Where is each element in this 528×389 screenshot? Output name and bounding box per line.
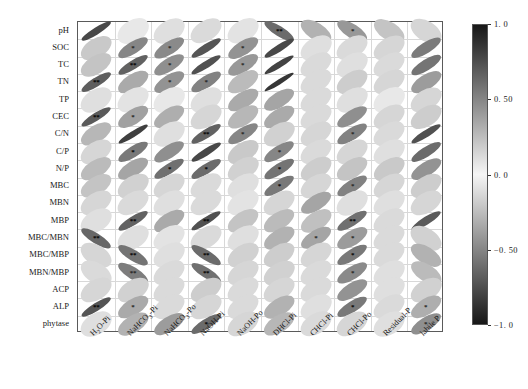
y-axis-label-mbc-mbn: MBC/MBN bbox=[28, 233, 69, 242]
significance-marker: ** bbox=[203, 131, 209, 138]
correlation-cell bbox=[261, 57, 298, 74]
y-axis-label-mbc-mbp: MBC/MBP bbox=[29, 250, 69, 259]
y-axis-label-mbn: MBN bbox=[49, 198, 69, 207]
correlation-cell: ** bbox=[188, 247, 225, 264]
correlation-cell bbox=[115, 126, 152, 143]
significance-marker: * bbox=[314, 234, 317, 241]
correlation-cell: ** bbox=[188, 126, 225, 143]
significance-marker: * bbox=[351, 269, 354, 276]
significance-marker: * bbox=[131, 304, 134, 311]
colorbar-tick-label: 0. 0 bbox=[494, 170, 508, 179]
correlation-cell bbox=[78, 212, 115, 229]
significance-marker: * bbox=[424, 304, 427, 311]
x-axis-labels: H2O-PiNaHCO3-PiNaHCO3-PoNaOH-PiNaOH-PoDH… bbox=[77, 332, 443, 389]
y-axis-label-acp: ACP bbox=[52, 285, 69, 294]
colorbar-tick bbox=[488, 325, 491, 326]
colorbar-tick-label: 0. 50 bbox=[494, 95, 513, 104]
y-axis-label-mbn-mbp: MBN/MBP bbox=[29, 267, 69, 276]
y-axis-label-n-p: N/P bbox=[56, 164, 69, 173]
y-axis-labels: pHSOCTCTNTPCECC/NC/PN/PMBCMBNMBPMBC/MBNM… bbox=[0, 21, 73, 332]
y-axis-label-c-p: C/P bbox=[56, 146, 69, 155]
colorbar bbox=[472, 24, 488, 325]
significance-marker: * bbox=[278, 148, 281, 155]
y-axis-label-tp: TP bbox=[59, 94, 69, 103]
significance-marker: * bbox=[241, 62, 244, 69]
significance-marker: * bbox=[351, 252, 354, 259]
significance-marker: ** bbox=[93, 234, 99, 241]
colorbar-tick bbox=[488, 250, 491, 251]
significance-marker: * bbox=[241, 131, 244, 138]
significance-marker: ** bbox=[93, 114, 99, 121]
significance-marker: * bbox=[241, 44, 244, 51]
y-axis-label-tn: TN bbox=[58, 77, 69, 86]
y-axis-label-phytase: phytase bbox=[43, 319, 69, 328]
colorbar-tick-label: 1. 0 bbox=[494, 20, 508, 29]
significance-marker: * bbox=[168, 165, 171, 172]
y-axis-label-soc: SOC bbox=[52, 43, 69, 52]
correlation-cell bbox=[407, 195, 444, 212]
significance-marker: ** bbox=[130, 62, 136, 69]
y-axis-label-mbp: MBP bbox=[51, 215, 69, 224]
significance-marker: * bbox=[131, 44, 134, 51]
correlation-cell bbox=[151, 126, 188, 143]
significance-marker: ** bbox=[276, 27, 282, 34]
significance-marker: * bbox=[168, 62, 171, 69]
colorbar-tick-label: −0. 50 bbox=[494, 245, 518, 254]
correlation-cell bbox=[334, 195, 371, 212]
significance-marker: ** bbox=[130, 252, 136, 259]
correlation-cell: * bbox=[334, 247, 371, 264]
significance-marker: * bbox=[351, 131, 354, 138]
y-axis-label-cec: CEC bbox=[52, 112, 69, 121]
correlation-cell: ** bbox=[261, 22, 298, 39]
correlation-cell: * bbox=[115, 108, 152, 125]
colorbar-tick bbox=[488, 175, 491, 176]
significance-marker: * bbox=[278, 183, 281, 190]
significance-marker: ** bbox=[130, 269, 136, 276]
significance-marker: * bbox=[131, 148, 134, 155]
significance-marker: * bbox=[131, 114, 134, 121]
significance-marker: * bbox=[204, 165, 207, 172]
significance-marker: ** bbox=[203, 269, 209, 276]
significance-marker: ** bbox=[203, 252, 209, 259]
colorbar-tick-label: −1. 0 bbox=[494, 321, 513, 330]
significance-marker: * bbox=[351, 27, 354, 34]
correlation-cell bbox=[78, 281, 115, 298]
significance-marker: ** bbox=[349, 217, 355, 224]
colorbar-gradient bbox=[473, 25, 487, 324]
y-axis-label-c-n: C/N bbox=[55, 129, 69, 138]
correlation-ellipse-plot: pHSOCTCTNTPCECC/NC/PN/PMBCMBNMBPMBC/MBNM… bbox=[0, 0, 528, 389]
correlation-cell: ** bbox=[115, 247, 152, 264]
correlation-cell bbox=[261, 39, 298, 56]
significance-marker: ** bbox=[93, 304, 99, 311]
significance-marker: * bbox=[168, 44, 171, 51]
correlation-cell bbox=[151, 195, 188, 212]
plot-area: ****************************************… bbox=[77, 21, 443, 332]
y-axis-label-ph: pH bbox=[58, 25, 69, 34]
significance-marker: * bbox=[351, 234, 354, 241]
y-axis-label-alp: ALP bbox=[53, 302, 69, 311]
correlation-cell bbox=[261, 126, 298, 143]
significance-marker: ** bbox=[130, 217, 136, 224]
significance-marker: ** bbox=[203, 217, 209, 224]
significance-marker: * bbox=[351, 183, 354, 190]
significance-marker: * bbox=[278, 165, 281, 172]
correlation-cell bbox=[115, 195, 152, 212]
correlation-cell bbox=[407, 126, 444, 143]
significance-marker: * bbox=[168, 79, 171, 86]
ellipse-cells: ****************************************… bbox=[78, 22, 442, 331]
colorbar-tick bbox=[488, 99, 491, 100]
significance-marker: * bbox=[351, 304, 354, 311]
y-axis-label-mbc: MBC bbox=[50, 181, 69, 190]
correlation-cell bbox=[188, 195, 225, 212]
correlation-cell bbox=[188, 22, 225, 39]
y-axis-label-tc: TC bbox=[58, 60, 69, 69]
significance-marker: * bbox=[204, 79, 207, 86]
colorbar-tick bbox=[488, 24, 491, 25]
significance-marker: ** bbox=[93, 79, 99, 86]
